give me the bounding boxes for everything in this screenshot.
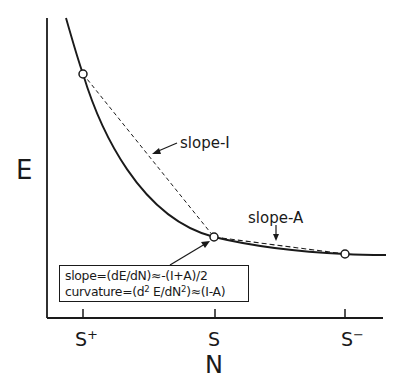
secant-slope-A	[214, 237, 345, 254]
point-s-plus	[79, 70, 87, 78]
formula-slope: slope=(dE/dN)≈-(I+A)/2	[65, 268, 243, 284]
point-s	[210, 233, 218, 241]
tick-label-s: S	[208, 328, 220, 350]
formula-curvature: curvature=(d2 E/dN2)≈(I-A)	[65, 284, 243, 300]
secant-slope-I	[83, 74, 214, 237]
y-axis-label: E	[16, 155, 32, 185]
tick-label-s-plus: S+	[75, 327, 98, 350]
x-axis-label: N	[205, 351, 223, 379]
tick-label-s-minus: S−	[341, 327, 364, 350]
formula-box: slope=(dE/dN)≈-(I+A)/2 curvature=(d2 E/d…	[59, 265, 249, 302]
slope-I-arrowhead	[152, 148, 161, 154]
formula-pointer-arrowhead	[201, 241, 210, 248]
slope-I-label: slope-I	[180, 134, 230, 152]
point-s-minus	[341, 250, 349, 258]
slope-A-arrowhead	[273, 234, 279, 241]
formula-pointer-arrow	[170, 244, 205, 265]
slope-A-label: slope-A	[248, 209, 304, 227]
energy-vs-electrons-diagram: slope-I slope-A E N S+ S S−	[0, 0, 404, 388]
